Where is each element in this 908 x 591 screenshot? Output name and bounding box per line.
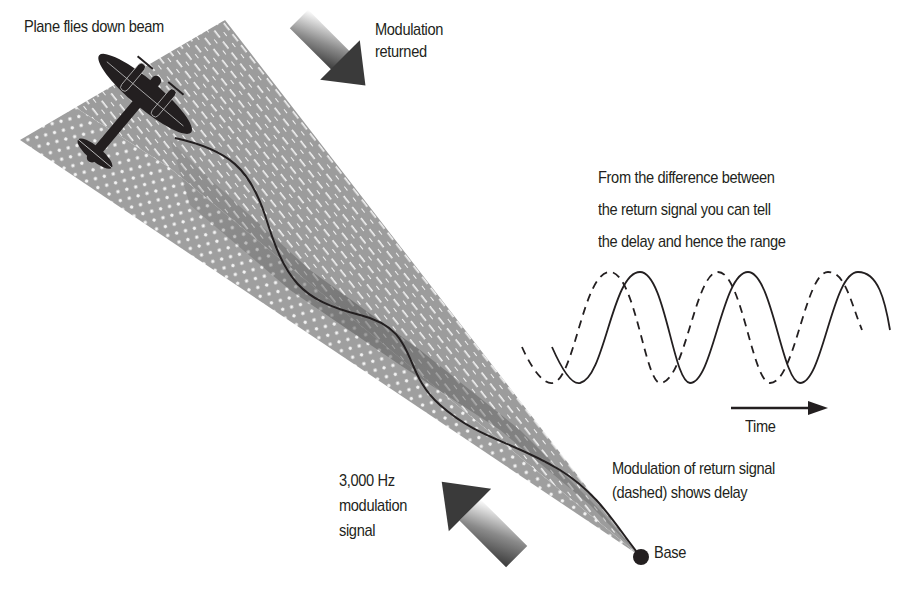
return-wave-dashed bbox=[522, 272, 862, 383]
plane-label: Plane flies down beam bbox=[24, 16, 164, 38]
signal-label-1: 3,000 Hz bbox=[339, 470, 395, 492]
base-marker bbox=[633, 549, 649, 565]
time-label: Time bbox=[745, 416, 776, 438]
signal-label-2: modulation bbox=[339, 495, 407, 517]
returned-label-2: returned bbox=[375, 41, 427, 63]
explain-label-1: From the difference between bbox=[598, 167, 775, 189]
arrow-returned-icon bbox=[279, 0, 385, 105]
signal-label-3: signal bbox=[339, 520, 375, 542]
explain-label-3: the delay and hence the range bbox=[598, 231, 786, 253]
base-label: Base bbox=[654, 542, 686, 564]
returned-label-1: Modulation bbox=[375, 19, 443, 41]
modulation-waves bbox=[522, 272, 890, 383]
outgoing-wave-solid bbox=[552, 272, 890, 383]
return-label-1: Modulation of return signal bbox=[612, 458, 775, 480]
arrow-signal-icon bbox=[421, 461, 538, 578]
time-arrow-icon bbox=[731, 401, 828, 415]
radar-beam-diagram bbox=[0, 0, 908, 591]
explain-label-2: the return signal you can tell bbox=[598, 199, 771, 221]
return-label-2: (dashed) shows delay bbox=[612, 482, 747, 504]
